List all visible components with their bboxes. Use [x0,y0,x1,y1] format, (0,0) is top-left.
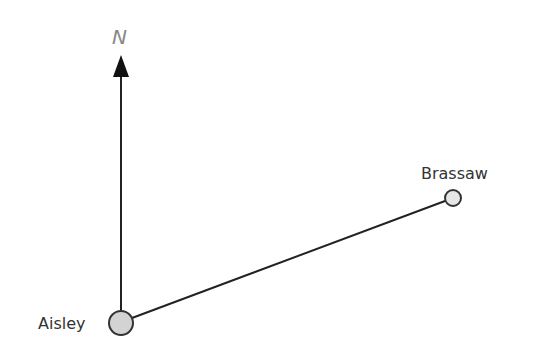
north-label: N [112,25,127,49]
north-arrowhead-icon [113,55,129,77]
brassaw-label: Brassaw [421,164,488,183]
bearing-diagram: N Aisley Brassaw [0,0,540,352]
aisley-node [109,311,133,335]
aisley-label: Aisley [38,314,85,333]
route-line [132,201,445,318]
brassaw-node [445,190,461,206]
